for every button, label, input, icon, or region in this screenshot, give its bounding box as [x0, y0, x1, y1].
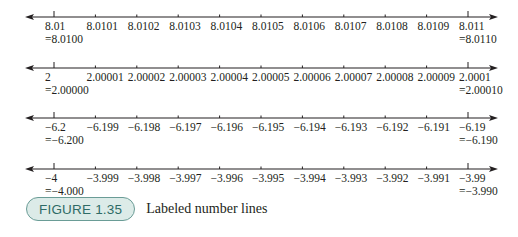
- tick-label: −3.992: [376, 172, 409, 184]
- tick-label: −6.194: [293, 121, 326, 133]
- tick-label: −3.994: [293, 172, 326, 184]
- tick-label: 2.00003: [169, 71, 207, 83]
- tick-label: 8.0104: [211, 20, 243, 32]
- tick-label: 8.0107: [335, 20, 367, 32]
- tick-label: −3.999: [86, 172, 119, 184]
- tick-label: 8.0108: [376, 20, 408, 32]
- tick-label: 2.0001: [459, 71, 491, 83]
- left-equivalent-note: =−6.200: [45, 134, 84, 146]
- tick-label: 2.00001: [86, 71, 124, 83]
- tick-label: −6.197: [169, 121, 202, 133]
- tick-label: −3.998: [128, 172, 161, 184]
- tick-label: 2.00005: [252, 71, 290, 83]
- tick-label: −6.196: [211, 121, 244, 133]
- right-equivalent-note: =2.00010: [459, 84, 503, 96]
- tick-label: 2.00002: [128, 71, 166, 83]
- right-equivalent-note: =−3.990: [459, 185, 498, 197]
- tick-label: 8.0105: [252, 20, 284, 32]
- tick-label: 2.00008: [376, 71, 414, 83]
- tick-label: 8.0106: [293, 20, 325, 32]
- figure-caption: FIGURE 1.35 Labeled number lines: [26, 197, 268, 221]
- tick-label: −3.99: [459, 172, 486, 184]
- number-line-4: −4−3.999−3.998−3.997−3.996−3.995−3.994−3…: [25, 163, 498, 197]
- tick-label: −6.2: [45, 121, 66, 133]
- tick-label: 8.011: [459, 20, 485, 32]
- right-equivalent-note: =8.0110: [459, 33, 497, 45]
- figure-label-badge: FIGURE 1.35: [26, 197, 135, 221]
- tick-label: 2.00006: [293, 71, 331, 83]
- tick-label: 8.0103: [169, 20, 201, 32]
- left-equivalent-note: =2.00000: [45, 84, 89, 96]
- tick-label: −6.195: [252, 121, 285, 133]
- tick-label: 8.0109: [418, 20, 450, 32]
- tick-label: −6.198: [128, 121, 161, 133]
- left-equivalent-note: =−4.000: [45, 185, 84, 197]
- number-line-1: 8.018.01018.01028.01038.01048.01058.0106…: [25, 11, 498, 45]
- left-equivalent-note: =8.0100: [45, 33, 83, 45]
- tick-label: −6.19: [459, 121, 486, 133]
- tick-label: −3.997: [169, 172, 202, 184]
- tick-label: 8.0102: [128, 20, 160, 32]
- tick-label: −3.996: [211, 172, 244, 184]
- tick-label: 8.01: [45, 20, 65, 32]
- tick-label: −6.199: [86, 121, 119, 133]
- tick-label: −6.192: [376, 121, 409, 133]
- tick-label: 2: [45, 71, 51, 83]
- number-line-3: −6.2−6.199−6.198−6.197−6.196−6.195−6.194…: [25, 112, 498, 146]
- tick-label: −3.993: [335, 172, 368, 184]
- tick-label: 2.00004: [211, 71, 249, 83]
- caption-text: Labeled number lines: [146, 201, 267, 217]
- tick-label: −6.193: [335, 121, 368, 133]
- number-line-2: 22.000012.000022.000032.000042.000052.00…: [25, 62, 503, 96]
- tick-label: −6.191: [418, 121, 451, 133]
- tick-label: 2.00009: [418, 71, 456, 83]
- right-equivalent-note: =−6.190: [459, 134, 498, 146]
- tick-label: −3.995: [252, 172, 285, 184]
- tick-label: 8.0101: [86, 20, 118, 32]
- tick-label: −3.991: [418, 172, 451, 184]
- tick-label: −4: [45, 172, 57, 184]
- tick-label: 2.00007: [335, 71, 373, 83]
